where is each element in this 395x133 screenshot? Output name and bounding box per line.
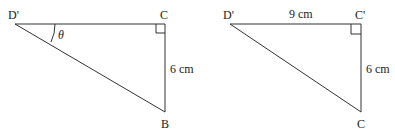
vertex-label-c: C <box>160 8 168 22</box>
diagram-canvas: D' C B θ 6 cm D' C' C 9 cm 6 cm <box>0 0 395 133</box>
side-label-right: 6 cm <box>366 62 390 76</box>
vertex-label-c: C <box>357 117 365 131</box>
angle-arc <box>51 24 55 42</box>
vertex-label-d-prime: D' <box>223 8 234 22</box>
side-label-right: 6 cm <box>170 62 194 76</box>
right-angle-marker <box>156 24 165 33</box>
vertex-label-d-prime: D' <box>8 8 19 22</box>
side-label-top: 9 cm <box>289 7 313 21</box>
triangle-right-outline <box>230 24 361 112</box>
right-angle-marker <box>351 24 361 34</box>
triangle-right: D' C' C 9 cm 6 cm <box>223 7 390 131</box>
vertex-label-b: B <box>161 117 169 131</box>
triangle-left: D' C B θ 6 cm <box>8 8 194 131</box>
triangle-left-outline <box>15 24 165 112</box>
vertex-label-c-prime: C' <box>355 8 365 22</box>
angle-label-theta: θ <box>58 28 64 42</box>
